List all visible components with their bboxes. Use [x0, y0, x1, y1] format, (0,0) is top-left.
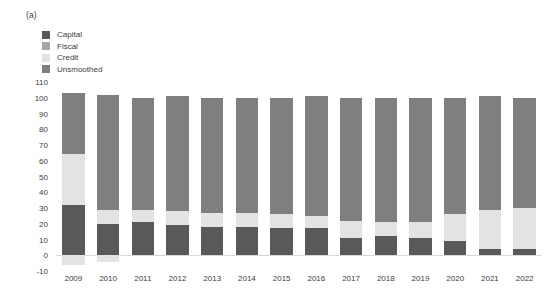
x-axis-tick-label: 2022	[516, 274, 534, 283]
bar-segment-credit[interactable]	[479, 210, 501, 249]
bar-segment-capital[interactable]	[479, 249, 501, 255]
bar-segment-unsmoothed[interactable]	[236, 98, 258, 213]
bar-column[interactable]	[444, 82, 466, 271]
chart-legend: CapitalFiscalCreditUnsmoothed	[42, 29, 102, 75]
y-axis-tick-label: 0	[44, 251, 48, 260]
x-axis-tick-label: 2015	[273, 274, 291, 283]
bar-segment-credit[interactable]	[62, 154, 84, 204]
bar-segment-unsmoothed[interactable]	[444, 98, 466, 215]
bar-segment-credit[interactable]	[340, 221, 362, 238]
bar-segment-unsmoothed[interactable]	[375, 98, 397, 222]
x-axis-tick-label: 2013	[203, 274, 221, 283]
bar-column[interactable]	[479, 82, 501, 271]
x-axis-tick-label: 2012	[169, 274, 187, 283]
bar-segment-capital[interactable]	[409, 238, 431, 255]
y-axis-tick-label: 50	[39, 172, 48, 181]
y-axis-tick-label: 20	[39, 219, 48, 228]
legend-swatch-icon	[42, 42, 50, 50]
bar-column[interactable]	[270, 82, 292, 271]
bar-segment-capital[interactable]	[444, 241, 466, 255]
y-axis: 1101009080706050403020100-10	[0, 82, 52, 271]
bar-column[interactable]	[62, 82, 84, 271]
bar-segment-unsmoothed[interactable]	[62, 93, 84, 154]
y-axis-tick-label: 60	[39, 156, 48, 165]
legend-item: Capital	[42, 29, 102, 40]
x-axis: 2009201020112012201320142015201620172018…	[56, 274, 542, 290]
bar-segment-credit[interactable]	[409, 222, 431, 238]
x-axis-tick-label: 2020	[446, 274, 464, 283]
bar-segment-credit[interactable]	[132, 210, 154, 223]
bar-column[interactable]	[340, 82, 362, 271]
x-axis-tick-label: 2016	[307, 274, 325, 283]
y-axis-tick-label: 30	[39, 204, 48, 213]
legend-item-label: Unsmoothed	[57, 64, 102, 75]
x-axis-tick-label: 2021	[481, 274, 499, 283]
y-axis-tick-label: 70	[39, 141, 48, 150]
bar-segment-credit[interactable]	[166, 211, 188, 225]
bar-segment-credit[interactable]	[513, 208, 535, 249]
legend-swatch-icon	[42, 65, 50, 73]
bar-segment-unsmoothed[interactable]	[479, 96, 501, 209]
bar-column[interactable]	[236, 82, 258, 271]
x-axis-tick-label: 2018	[377, 274, 395, 283]
legend-item: Fiscal	[42, 41, 102, 52]
bar-column[interactable]	[132, 82, 154, 271]
bar-segment-capital[interactable]	[305, 228, 327, 255]
legend-item: Unsmoothed	[42, 64, 102, 75]
bar-segment-credit[interactable]	[375, 222, 397, 236]
bar-segment-unsmoothed[interactable]	[409, 98, 431, 222]
bar-segment-unsmoothed[interactable]	[201, 98, 223, 213]
bar-segment-capital[interactable]	[62, 205, 84, 255]
y-axis-tick-label: 40	[39, 188, 48, 197]
bar-segment-unsmoothed[interactable]	[270, 98, 292, 215]
bar-segment-credit[interactable]	[305, 216, 327, 229]
bar-segment-unsmoothed[interactable]	[166, 96, 188, 211]
legend-item-label: Credit	[57, 52, 78, 63]
legend-item-label: Capital	[57, 29, 82, 40]
bar-segment-capital[interactable]	[166, 225, 188, 255]
bar-segment-unsmoothed[interactable]	[513, 98, 535, 208]
bar-column[interactable]	[97, 82, 119, 271]
bar-segment-capital[interactable]	[201, 227, 223, 255]
y-axis-tick-label: 90	[39, 109, 48, 118]
bar-segment-unsmoothed[interactable]	[340, 98, 362, 221]
y-axis-tick-label: 80	[39, 125, 48, 134]
bar-segment-unsmoothed[interactable]	[132, 98, 154, 210]
bar-segment-capital[interactable]	[236, 227, 258, 255]
bar-column[interactable]	[201, 82, 223, 271]
bar-segment-capital[interactable]	[340, 238, 362, 255]
y-axis-tick-label: 110	[35, 78, 48, 87]
x-axis-tick-label: 2017	[342, 274, 360, 283]
bar-segment-credit[interactable]	[97, 210, 119, 224]
bar-segment-capital[interactable]	[513, 249, 535, 255]
bar-segment-unsmoothed[interactable]	[97, 95, 119, 210]
bar-segment-unsmoothed[interactable]	[305, 96, 327, 216]
zero-baseline	[56, 255, 542, 256]
bar-segment-capital[interactable]	[270, 228, 292, 255]
x-axis-tick-label: 2011	[134, 274, 151, 283]
bar-segment-credit[interactable]	[236, 213, 258, 227]
legend-swatch-icon	[42, 31, 50, 39]
legend-item-label: Fiscal	[57, 41, 78, 52]
bar-column[interactable]	[305, 82, 327, 271]
bar-segment-credit-negative[interactable]	[97, 255, 119, 261]
bar-column[interactable]	[166, 82, 188, 271]
x-axis-tick-label: 2014	[238, 274, 256, 283]
bar-segment-capital[interactable]	[132, 222, 154, 255]
bar-segment-capital[interactable]	[97, 224, 119, 256]
bar-column[interactable]	[375, 82, 397, 271]
bar-segment-credit[interactable]	[444, 214, 466, 241]
panel-label: (a)	[26, 10, 37, 20]
x-axis-tick-label: 2009	[64, 274, 82, 283]
bar-segment-capital[interactable]	[375, 236, 397, 255]
y-axis-tick-label: 100	[35, 93, 48, 102]
plot-area	[56, 82, 542, 271]
y-axis-tick-label: -10	[36, 267, 48, 276]
bar-segment-credit[interactable]	[270, 214, 292, 228]
bar-column[interactable]	[513, 82, 535, 271]
legend-swatch-icon	[42, 54, 50, 62]
legend-item: Credit	[42, 52, 102, 63]
bar-column[interactable]	[409, 82, 431, 271]
bar-segment-credit-negative[interactable]	[62, 255, 84, 264]
bar-segment-credit[interactable]	[201, 213, 223, 227]
